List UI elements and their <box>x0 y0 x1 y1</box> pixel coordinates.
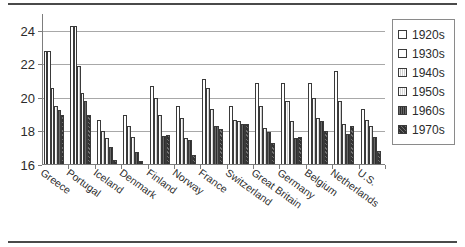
top-rule <box>8 3 457 5</box>
y-axis-tick-label: 18 <box>21 125 35 138</box>
y-axis-tick-label: 22 <box>21 58 35 71</box>
legend-swatch <box>398 68 407 77</box>
legend-item[interactable]: 1940s <box>398 63 450 82</box>
plot-area: 1618202224 <box>42 14 385 165</box>
y-axis-tick-label: 16 <box>21 159 35 172</box>
legend-label: 1970s <box>412 124 445 136</box>
legend-swatch <box>398 30 407 39</box>
legend-swatch <box>398 106 407 115</box>
legend-label: 1940s <box>412 67 445 79</box>
legend-swatch <box>398 87 407 96</box>
legend-item[interactable]: 1960s <box>398 101 450 120</box>
x-axis-labels: GreecePortugalIcelandDenmarkFinlandNorwa… <box>42 167 385 227</box>
y-axis-tick-label: 24 <box>21 24 35 37</box>
legend-item[interactable]: 1950s <box>398 82 450 101</box>
legend-label: 1920s <box>412 29 445 41</box>
chart-legend: 1920s1930s1940s1950s1960s1970s <box>392 19 455 145</box>
legend-item[interactable]: 1920s <box>398 25 450 44</box>
y-axis-tickmark <box>38 165 42 166</box>
bottom-rule <box>8 241 457 243</box>
legend-swatch <box>398 49 407 58</box>
legend-item[interactable]: 1930s <box>398 44 450 63</box>
legend-label: 1950s <box>412 86 445 98</box>
legend-label: 1960s <box>412 105 445 117</box>
x-axis-tickmark <box>385 165 386 169</box>
y-axis-tick-label: 20 <box>21 91 35 104</box>
legend-label: 1930s <box>412 48 445 60</box>
legend-swatch <box>398 125 407 134</box>
legend-item[interactable]: 1970s <box>398 120 450 139</box>
chart-figure: 1618202224 GreecePortugalIcelandDenmarkF… <box>0 0 465 247</box>
plot-frame <box>42 14 385 165</box>
